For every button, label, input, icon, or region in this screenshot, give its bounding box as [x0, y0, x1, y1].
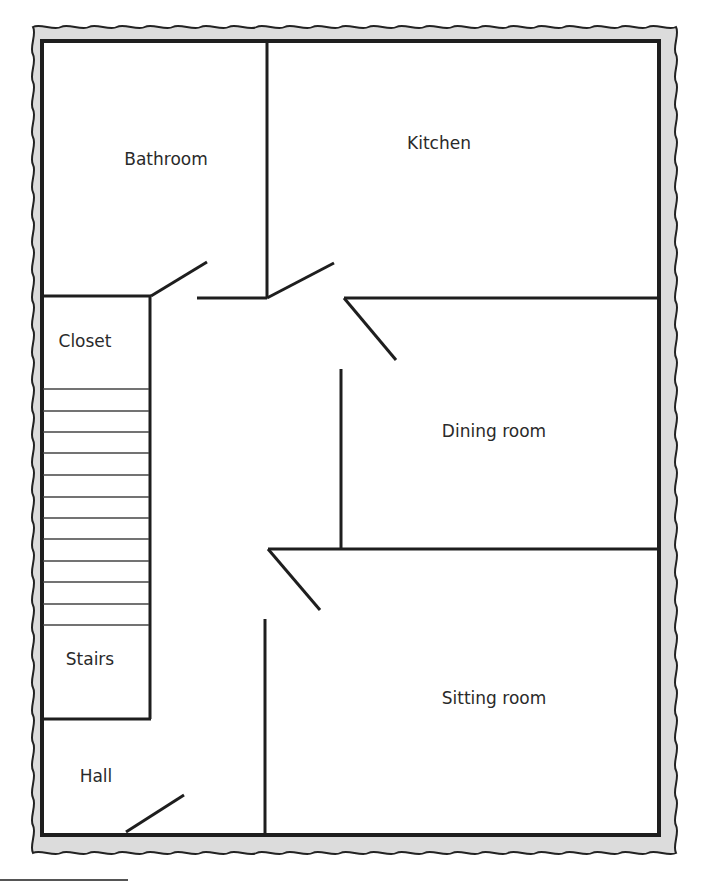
room-label-sitting-room: Sitting room [442, 688, 547, 708]
room-label-bathroom: Bathroom [124, 149, 208, 169]
room-label-hall: Hall [80, 766, 113, 786]
room-label-stairs: Stairs [66, 649, 114, 669]
room-label-kitchen: Kitchen [407, 133, 471, 153]
room-label-closet: Closet [59, 331, 112, 351]
floor-plan-drawing [0, 0, 708, 881]
room-label-dining-room: Dining room [442, 421, 546, 441]
